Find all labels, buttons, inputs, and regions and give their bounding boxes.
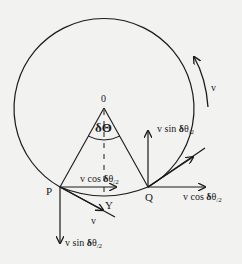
p-velocity-label: v: [91, 215, 96, 226]
center-label: 0: [101, 93, 106, 104]
direction-v-label: v: [211, 82, 216, 93]
q-horizontal-label: v cos δθ/2: [183, 191, 222, 204]
direction-arrow: [194, 57, 208, 107]
p-horizontal-label: v cos δθ/2: [80, 173, 119, 186]
point-q-label: Q: [145, 191, 153, 203]
circular-motion-diagram: 0 δΘ v v cos δθ/2 v sin δθ/2 P Y v v sin…: [0, 0, 242, 264]
p-vertical-label: v sin δθ/2: [65, 237, 103, 250]
point-y-label: Y: [105, 199, 113, 211]
q-tangent-arrow: [148, 157, 193, 187]
q-vertical-label: v sin δθ/2: [157, 123, 195, 136]
point-p-label: P: [46, 185, 52, 197]
angle-label: δΘ: [95, 120, 112, 135]
p-tangent-arrow: [60, 187, 103, 210]
